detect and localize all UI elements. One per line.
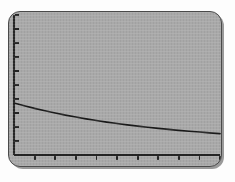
series-line-decay-curve (14, 103, 220, 134)
data-series (14, 103, 220, 134)
screenshot-root (0, 0, 235, 182)
plot-surface (9, 12, 221, 166)
calculator-screen (8, 11, 222, 167)
decay-curve-plot (9, 12, 221, 166)
x-axis-ticks (35, 156, 220, 160)
y-axis-ticks (15, 15, 19, 141)
